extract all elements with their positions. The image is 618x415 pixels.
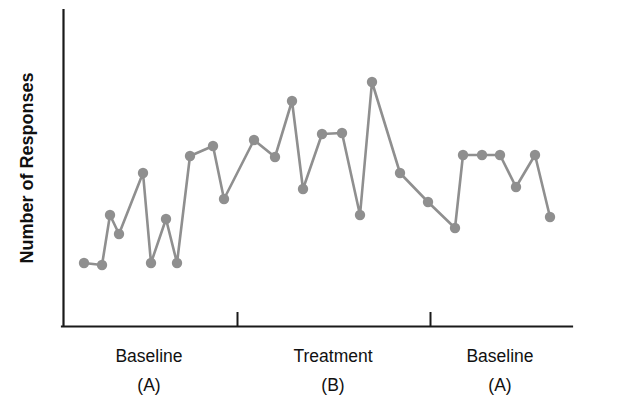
data-point-3	[105, 210, 115, 220]
data-point-14	[287, 96, 297, 106]
data-point-18	[355, 210, 365, 220]
data-point-25	[495, 150, 505, 160]
data-line-responses	[84, 82, 550, 265]
data-point-22	[450, 223, 460, 233]
data-point-20	[395, 168, 405, 178]
phase-label-baseline-a2-code: (A)	[488, 375, 511, 395]
chart-figure: Number of Responses Baseline (A) Treatme…	[0, 0, 618, 415]
phase-label-treatment-b-code: (B)	[321, 375, 344, 395]
data-point-16	[317, 129, 327, 139]
data-point-21	[423, 197, 433, 207]
data-point-10	[208, 141, 218, 151]
data-point-9	[185, 151, 195, 161]
data-point-23	[458, 150, 468, 160]
phase-label-baseline-a1-code: (A)	[137, 375, 160, 395]
chart-canvas: Number of Responses Baseline (A) Treatme…	[0, 0, 618, 415]
data-point-27	[530, 150, 540, 160]
phase-label-baseline-a1-name: Baseline	[115, 346, 182, 366]
data-point-12	[249, 135, 259, 145]
data-point-4	[114, 229, 124, 239]
y-axis-title: Number of Responses	[17, 72, 37, 263]
data-point-8	[172, 258, 182, 268]
data-point-28	[545, 212, 555, 222]
data-point-26	[511, 182, 521, 192]
data-point-6	[146, 258, 156, 268]
data-point-1	[79, 258, 89, 268]
data-point-13	[270, 152, 280, 162]
phase-label-treatment-b-name: Treatment	[293, 346, 372, 366]
data-point-15	[298, 184, 308, 194]
data-point-19	[367, 77, 377, 87]
data-point-5	[138, 168, 148, 178]
data-point-24	[477, 150, 487, 160]
data-point-11	[219, 194, 229, 204]
phase-label-baseline-a2-name: Baseline	[466, 346, 533, 366]
data-point-17	[337, 128, 347, 138]
data-point-7	[161, 214, 171, 224]
data-point-2	[97, 260, 107, 270]
